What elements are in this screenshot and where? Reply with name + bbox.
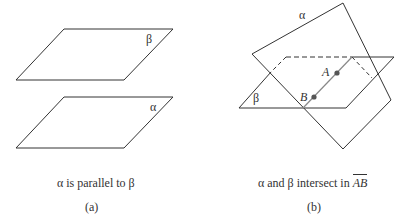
sublabel-a: (a) <box>85 200 98 215</box>
label-point-a: A <box>322 65 329 80</box>
caption-b: α and β intersect in AB <box>258 176 367 191</box>
caption-a: α is parallel to β <box>57 176 135 191</box>
label-alpha-b: α <box>299 8 305 23</box>
point-a <box>334 70 339 75</box>
label-beta-a: β <box>146 32 152 47</box>
beta-right-inner-dashed <box>352 57 372 78</box>
point-b <box>311 94 316 99</box>
caption-b-line-ab: AB <box>353 176 368 191</box>
label-point-b: B <box>300 90 307 105</box>
alpha-edge-right <box>343 100 391 149</box>
beta-left-edge-dashed <box>271 57 286 72</box>
sublabel-b: (b) <box>307 200 321 215</box>
caption-b-text: α and β intersect in <box>258 176 350 190</box>
label-alpha-a: α <box>150 100 156 115</box>
beta-right-edge <box>346 57 394 108</box>
alpha-edge-left <box>252 54 343 149</box>
label-beta-b: β <box>253 91 259 106</box>
alpha-edge-top-left <box>252 3 343 54</box>
